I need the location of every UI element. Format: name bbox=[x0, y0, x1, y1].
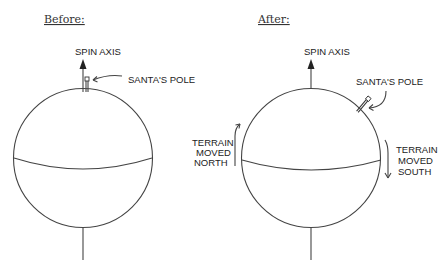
before-spin-axis-arrow-icon bbox=[80, 59, 87, 92]
before-pole-label: SANTA'S POLE bbox=[128, 74, 195, 85]
north-arrow-icon bbox=[235, 124, 240, 166]
after-santa-pole-icon bbox=[356, 96, 371, 113]
after-spin-axis-label: SPIN AXIS bbox=[304, 46, 350, 57]
diagram-canvas: Before: SPIN AXIS SANTA'S POLE After: SP… bbox=[0, 0, 448, 274]
terrain-moved-north-annotation: TERRAIN MOVED NORTH bbox=[192, 124, 240, 168]
before-title: Before: bbox=[44, 13, 85, 26]
after-panel: After: SPIN AXIS SANTA'S POLE TERRAIN MO… bbox=[192, 13, 438, 260]
south-annotation-line-1: TERRAIN bbox=[396, 144, 438, 155]
after-globe bbox=[242, 89, 381, 228]
after-pole-label: SANTA'S POLE bbox=[356, 76, 423, 87]
before-panel: Before: SPIN AXIS SANTA'S POLE bbox=[14, 13, 196, 260]
before-globe bbox=[14, 89, 153, 228]
after-title: After: bbox=[257, 13, 290, 26]
after-equator bbox=[242, 160, 381, 170]
before-equator bbox=[14, 158, 152, 169]
before-spin-axis-label: SPIN AXIS bbox=[75, 46, 121, 57]
south-arrow-icon bbox=[385, 140, 388, 178]
before-santa-pole-icon bbox=[85, 77, 89, 92]
before-pole-pointer-arrow-icon bbox=[93, 76, 122, 81]
north-annotation-line-3: NORTH bbox=[194, 157, 228, 168]
south-annotation-line-3: SOUTH bbox=[398, 166, 431, 177]
terrain-moved-south-annotation: TERRAIN MOVED SOUTH bbox=[385, 140, 438, 178]
after-spin-axis-arrow-icon bbox=[308, 59, 315, 89]
south-annotation-line-2: MOVED bbox=[398, 155, 433, 166]
